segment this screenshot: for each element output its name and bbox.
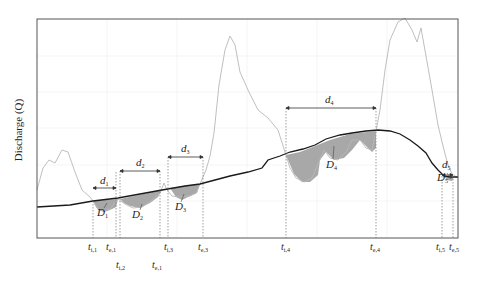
deficit-labels: D1 D2 D3 D4 D5: [96, 158, 448, 221]
svg-text:D5: D5: [436, 171, 448, 184]
svg-text:te,5: te,5: [449, 241, 459, 253]
svg-text:D4: D4: [325, 158, 337, 171]
threshold-line: [37, 130, 458, 207]
svg-text:D3: D3: [174, 200, 186, 213]
svg-text:d3: d3: [181, 142, 190, 155]
drought-deficit-diagram: Discharge (Q) d1 d2 d3 d4 d5 D1 D2 D3 D4…: [0, 0, 480, 284]
time-labels: ti,1 te,1 ti,2 te,1 ti,3 te,3 ti,4 te,4 …: [88, 241, 459, 271]
svg-text:ti,3: ti,3: [164, 241, 173, 253]
event-markers: [93, 108, 453, 238]
svg-text:ti,5: ti,5: [436, 241, 445, 253]
deficit-leaders: [104, 146, 451, 210]
svg-text:d4: d4: [325, 93, 334, 106]
svg-text:te,3: te,3: [198, 241, 208, 253]
deficit-areas: [93, 131, 454, 212]
duration-arrows: [93, 107, 453, 190]
svg-text:ti,2: ti,2: [116, 259, 125, 271]
svg-text:te,4: te,4: [370, 241, 380, 253]
svg-text:ti,4: ti,4: [281, 241, 290, 253]
svg-text:D2: D2: [131, 208, 143, 221]
deficit-area-4: [286, 131, 376, 182]
y-axis-label: Discharge (Q): [12, 98, 25, 161]
svg-text:d2: d2: [136, 156, 145, 169]
svg-text:ti,1: ti,1: [88, 241, 97, 253]
svg-text:te,1: te,1: [152, 259, 162, 271]
deficit-area-2: [120, 190, 162, 208]
svg-text:te,1: te,1: [106, 241, 116, 253]
duration-labels: d1 d2 d3 d4 d5: [100, 93, 451, 187]
svg-text:d5: d5: [442, 158, 451, 171]
